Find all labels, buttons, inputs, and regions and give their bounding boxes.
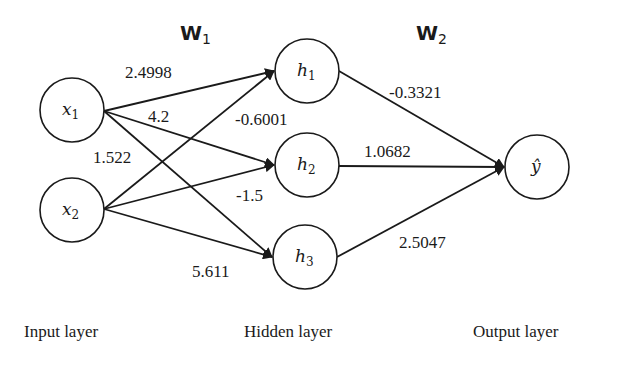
weight-x1-h3: 1.522	[93, 148, 131, 167]
weight-h1-y: -0.3321	[389, 83, 441, 102]
node-h3: h3	[273, 225, 337, 289]
node-y-hat: ŷ	[505, 135, 569, 199]
layer-label-hidden: Hidden layer	[244, 322, 333, 341]
neural-network-diagram: x1 x2 h1 h2 h3 ŷ W1 W2 2.4998 4.2 1.522 …	[0, 0, 618, 366]
node-h2: h2	[275, 133, 339, 197]
weight-x2-h1: -0.6001	[235, 110, 287, 129]
matrix-label-w2: W2	[416, 21, 447, 47]
weight-x1-h1: 2.4998	[125, 63, 172, 82]
node-x2: x2	[40, 178, 104, 242]
layer-label-input: Input layer	[24, 322, 98, 341]
weight-h3-y: 2.5047	[399, 233, 446, 252]
edge-x1-h3	[104, 111, 272, 257]
edge-h2-y	[339, 166, 504, 167]
svg-text:ŷ: ŷ	[530, 156, 541, 176]
node-h1: h1	[275, 39, 339, 103]
weight-x2-h3: 5.611	[192, 262, 230, 281]
weight-x2-h2: -1.5	[236, 186, 263, 205]
weight-h2-y: 1.0682	[364, 142, 411, 161]
matrix-label-w1: W1	[180, 21, 211, 47]
edge-x2-h3	[104, 209, 272, 257]
weight-x1-h2: 4.2	[148, 107, 169, 126]
node-x1: x1	[40, 78, 104, 142]
layer-label-output: Output layer	[473, 322, 559, 341]
